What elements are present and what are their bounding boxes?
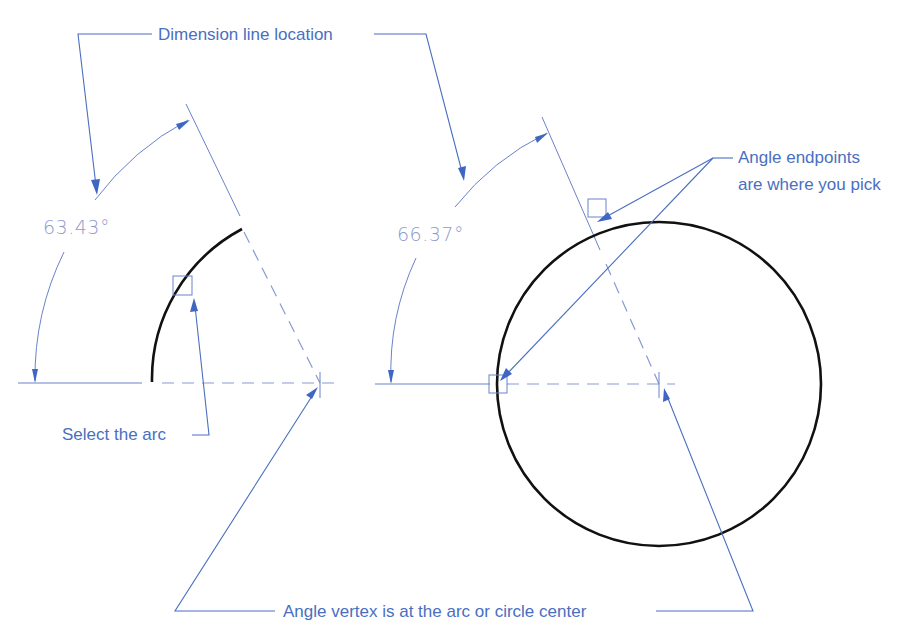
right-dimension-arc-upper <box>455 133 547 207</box>
dimension-line-location-label: Dimension line location <box>158 25 333 44</box>
endpoints-leader-top <box>604 158 713 218</box>
callout-angle-endpoints: Angle endpoints are where you pick <box>500 148 881 381</box>
callout-angle-vertex: Angle vertex is at the arc or circle cen… <box>175 387 753 621</box>
left-arc-object <box>152 229 242 382</box>
dimension-leader-right-arrow <box>458 166 466 181</box>
right-dashed-inclined <box>606 264 659 384</box>
right-dimension-value: 66.37° <box>397 223 464 245</box>
callout-dimension-line-location: Dimension line location <box>78 25 466 195</box>
angle-vertex-label: Angle vertex is at the arc or circle cen… <box>283 602 587 621</box>
vertex-leader-right <box>656 396 753 611</box>
right-dim-arrow-top <box>535 133 548 143</box>
right-inclined-extension <box>542 117 600 250</box>
dimension-leader-left-arrow <box>91 179 100 195</box>
callout-select-the-arc: Select the arc <box>62 298 209 444</box>
select-the-arc-label: Select the arc <box>62 425 166 444</box>
left-dimension-arc-lower <box>35 252 64 381</box>
left-dim-arrow-top <box>176 120 190 130</box>
dimension-leader-right <box>374 34 462 172</box>
vertex-arrow-left <box>306 387 318 399</box>
left-dimension-arc-upper <box>95 120 188 200</box>
right-dim-arrow-bottom <box>388 370 394 384</box>
left-dim-arrow-bottom <box>32 369 38 383</box>
angle-endpoints-label-line1: Angle endpoints <box>738 148 860 167</box>
angle-endpoints-label-line2: are where you pick <box>738 175 881 194</box>
left-arc-example: 63.43° <box>18 104 335 398</box>
left-dashed-inclined <box>244 232 320 383</box>
select-arc-arrow <box>190 298 198 312</box>
right-dimension-arc-lower <box>391 258 416 382</box>
dimension-leader-left <box>78 34 152 186</box>
left-inclined-extension <box>186 104 240 216</box>
vertex-leader-left <box>175 393 314 611</box>
select-arc-leader <box>192 306 209 435</box>
angular-dimension-diagram: 63.43° 66.37° Dimension line location An… <box>0 0 923 634</box>
right-pick-box-top <box>588 199 606 217</box>
left-dimension-value: 63.43° <box>43 216 110 238</box>
endpoints-leader-left <box>506 158 713 375</box>
